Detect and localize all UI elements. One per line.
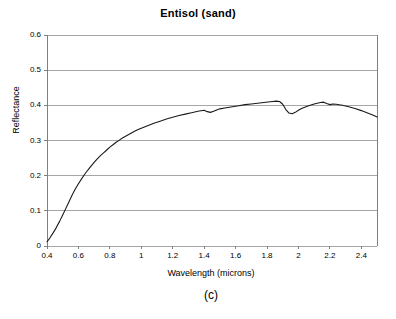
plot-area: 0.60.50.40.30.20.10 0.40.60.811.21.41.61…	[0, 0, 396, 319]
x-tick-label: 0.8	[95, 251, 125, 260]
y-tick-label: 0	[7, 241, 41, 250]
axis-ticks	[44, 35, 361, 249]
y-tick-label: 0.6	[7, 30, 41, 39]
x-tick-label: 2.2	[315, 251, 345, 260]
x-axis-title: Wavelength (microns)	[45, 268, 377, 278]
y-tick-label: 0.1	[7, 206, 41, 215]
x-tick-label: 1.2	[158, 251, 188, 260]
y-axis-title: Reflectance	[11, 70, 21, 150]
x-tick-label: 1.8	[252, 251, 282, 260]
data-series-line	[47, 101, 377, 242]
x-tick-label: 1.4	[189, 251, 219, 260]
x-tick-label: 1	[126, 251, 156, 260]
x-tick-label: 0.4	[32, 251, 62, 260]
x-tick-label: 2	[283, 251, 313, 260]
x-tick-label: 2.4	[346, 251, 376, 260]
figure-panel: Entisol (sand) 0.60.50.40.30.20.10 0.40.…	[0, 0, 396, 319]
x-tick-label: 0.6	[63, 251, 93, 260]
gridlines	[47, 35, 377, 246]
x-tick-label: 1.6	[221, 251, 251, 260]
y-tick-label: 0.2	[7, 171, 41, 180]
figure-caption: (c)	[45, 288, 377, 302]
